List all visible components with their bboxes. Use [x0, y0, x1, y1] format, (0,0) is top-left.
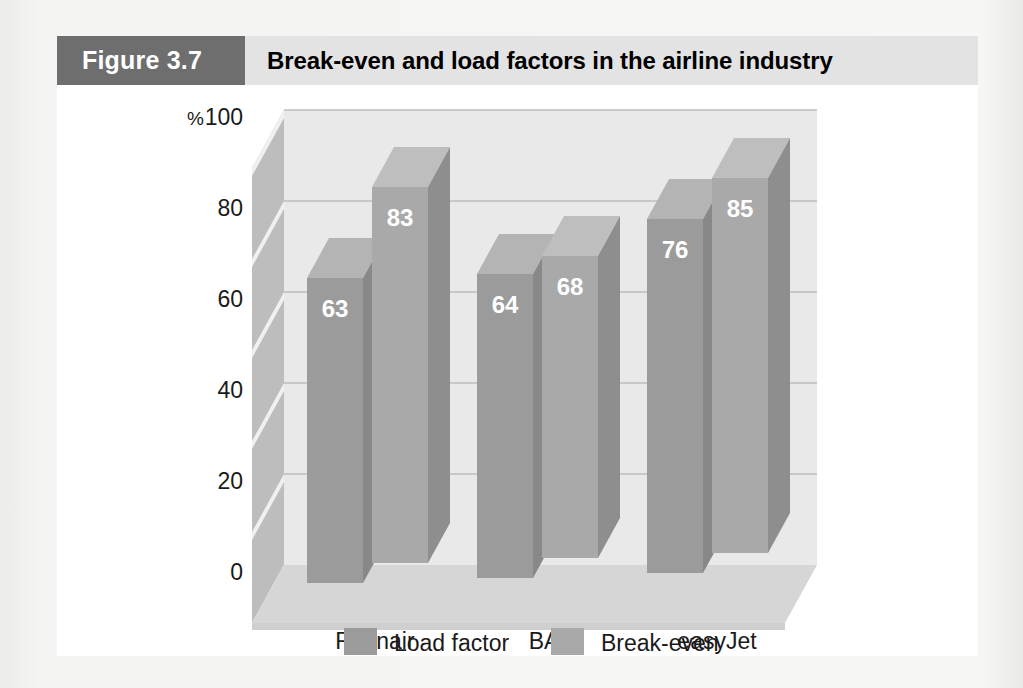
- y-tick-60: 60: [217, 286, 243, 312]
- figure-header: Figure 3.7 Break-even and load factors i…: [57, 36, 978, 85]
- legend-swatch-load-factor: [344, 628, 377, 655]
- y-tick-100: 100: [205, 104, 243, 130]
- figure-number-badge: Figure 3.7: [57, 36, 245, 85]
- bar-value-ryanair-break: 83: [387, 204, 414, 231]
- screenshot-canvas: Figure 3.7 Break-even and load factors i…: [0, 0, 1023, 688]
- chart-left-wall: [252, 110, 284, 623]
- chart-plot-area: 63 83 64: [57, 85, 978, 656]
- y-axis-unit-label: %: [187, 108, 204, 129]
- bar-value-easyjet-load: 76: [662, 236, 689, 263]
- legend-item-load-factor[interactable]: Load factor: [344, 628, 509, 656]
- y-tick-40: 40: [217, 377, 243, 403]
- bar-value-ryanair-load: 63: [322, 295, 349, 322]
- y-tick-80: 80: [217, 195, 243, 221]
- y-axis-tick-labels: 100 80 60 40 20 0: [205, 104, 243, 585]
- chart-legend: Load factor Break-even: [57, 618, 978, 668]
- legend-label-load-factor: Load factor: [394, 630, 509, 656]
- legend-label-break-even: Break-even: [601, 630, 719, 656]
- figure-title: Break-even and load factors in the airli…: [245, 36, 978, 85]
- y-tick-20: 20: [217, 468, 243, 494]
- bar-value-ba-break: 68: [557, 273, 584, 300]
- figure-container: Figure 3.7 Break-even and load factors i…: [57, 36, 978, 656]
- bar-value-easyjet-break: 85: [727, 195, 754, 222]
- y-tick-0: 0: [230, 559, 243, 585]
- legend-item-break-even[interactable]: Break-even: [551, 628, 719, 656]
- bar-value-ba-load: 64: [492, 291, 519, 318]
- bar-ba-break-even: [542, 216, 620, 558]
- bar-chart-3d: 63 83 64: [57, 85, 978, 656]
- legend-swatch-break-even: [551, 628, 584, 655]
